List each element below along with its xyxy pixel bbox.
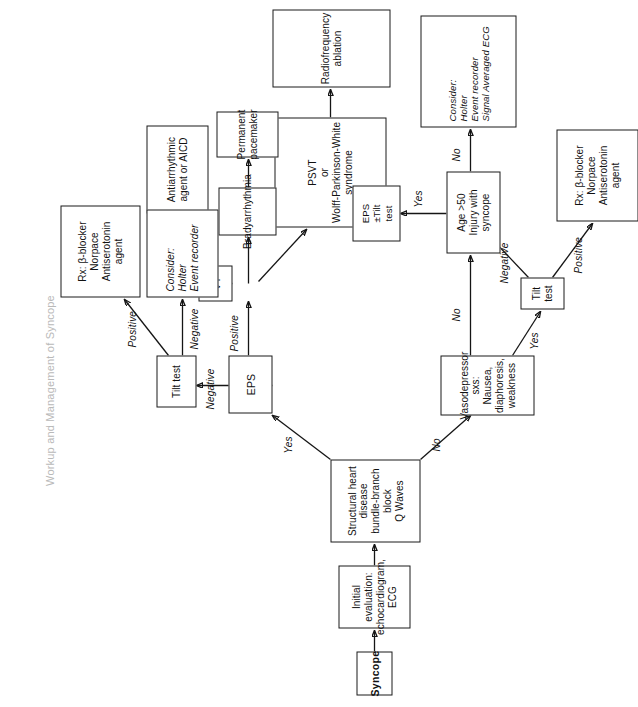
node-rx-upper-label: Rx: β-blockerNorpaceAntiserotoninagent	[76, 221, 123, 281]
node-syncope-label: Syncope	[368, 650, 380, 696]
node-vasodepressor-sxs-label: Vasodepressor sxs:Nausea, diaphoresis, w…	[458, 351, 517, 419]
node-consider-lower[interactable]: Consider:HolterEvent recorderSignal Aver…	[420, 15, 516, 127]
node-radiofrequency-ablation-label: Radiofrequency ablation	[319, 12, 343, 83]
node-tilt-test-upper-label: Tilt test	[170, 365, 182, 398]
edge-label-tilt-lower-positive: Positive	[572, 236, 583, 273]
edge-label-eps-negative: Negative	[204, 368, 215, 409]
node-age-over-50-label: Age >50Injury withsyncope	[455, 189, 490, 235]
edge-label-no-to-vasodepressor: No	[430, 438, 441, 451]
node-eps[interactable]: EPS	[228, 355, 272, 413]
edge-label-tilt-upper-positive: Positive	[126, 310, 137, 347]
node-consider-upper-label: Consider:HolterEvent recorder	[164, 224, 199, 291]
node-initial-evaluation[interactable]: Initial evaluation:echocardiogram,ECG	[338, 565, 410, 628]
edge-label-age-no: No	[450, 148, 461, 161]
node-tilt-test-lower-label: Tilt test	[530, 281, 554, 305]
node-radiofrequency-ablation[interactable]: Radiofrequency ablation	[272, 9, 390, 87]
edge-label-yes-to-eps: Yes	[282, 436, 293, 453]
node-initial-evaluation-label: Initial evaluation:echocardiogram,ECG	[350, 559, 397, 635]
node-permanent-pacemaker[interactable]: Permanentpacemaker	[216, 111, 278, 157]
edge-label-tilt-upper-negative: Negative	[188, 308, 199, 349]
edge-label-tilt-lower-negative: Negative	[498, 242, 509, 283]
node-syncope[interactable]: Syncope	[356, 651, 392, 695]
edge-label-vasodepressor-yes: Yes	[528, 332, 539, 349]
node-permanent-pacemaker-label: Permanentpacemaker	[235, 109, 259, 159]
node-structural-heart-disease[interactable]: Structural heartdiseasebundle-branch blo…	[330, 459, 420, 542]
node-antiarrhythmic-agent-or-aicd-label: Antiarrhythmicagent or AICD	[165, 136, 189, 201]
node-tilt-test-upper[interactable]: Tilt test	[156, 355, 196, 407]
node-consider-upper[interactable]: Consider:HolterEvent recorder	[146, 209, 218, 297]
edge-label-vasodepressor-no: No	[450, 308, 461, 321]
node-eps-label: EPS	[244, 373, 256, 394]
edge-label-age-yes: Yes	[412, 190, 423, 207]
node-rx-lower-label: Rx: β-blockerNorpaceAntiserotoninagent	[573, 145, 620, 205]
node-rx-upper[interactable]: Rx: β-blockerNorpaceAntiserotoninagent	[60, 205, 140, 297]
node-vasodepressor-sxs[interactable]: Vasodepressor sxs:Nausea, diaphoresis, w…	[440, 355, 534, 415]
node-structural-heart-disease-label: Structural heartdiseasebundle-branch blo…	[346, 463, 405, 538]
node-consider-lower-label: Consider:HolterEvent recorderSignal Aver…	[446, 26, 490, 121]
node-tilt-test-lower[interactable]: Tilt test	[520, 277, 564, 309]
node-bradyarrhythmia-label: Bradyarrhythmia	[241, 174, 253, 249]
node-age-over-50[interactable]: Age >50Injury withsyncope	[446, 171, 500, 253]
node-antiarrhythmic-agent-or-aicd[interactable]: Antiarrhythmicagent or AICD	[146, 125, 208, 213]
node-psvt-wpw-label: PSVTorWolff-Parkinson-Whitesyndrome	[306, 121, 353, 222]
node-bradyarrhythmia[interactable]: Bradyarrhythmia	[218, 187, 276, 235]
node-eps-plus-minus-tilt[interactable]: EPS±Tilttest	[352, 185, 400, 241]
edge-label-eps-positive: Positive	[228, 314, 239, 351]
node-rx-lower[interactable]: Rx: β-blockerNorpaceAntiserotoninagent	[556, 129, 638, 221]
node-eps-plus-minus-tilt-label: EPS±Tilttest	[359, 203, 392, 223]
